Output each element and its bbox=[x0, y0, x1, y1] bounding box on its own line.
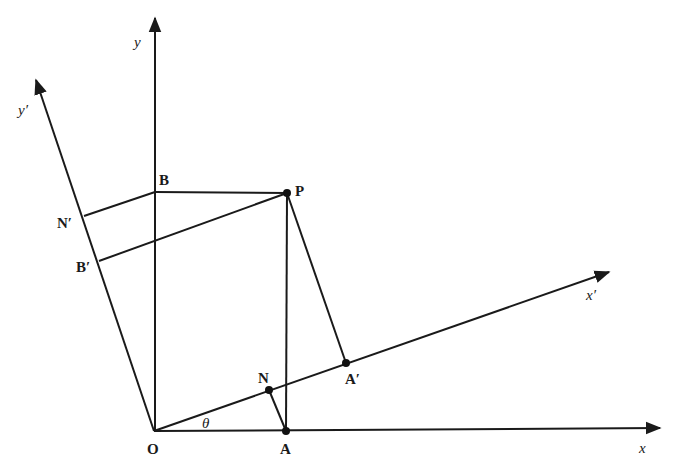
label-A: A bbox=[280, 441, 291, 457]
label-O: O bbox=[147, 441, 159, 457]
point-N bbox=[265, 386, 273, 394]
label-B-prime: B′ bbox=[76, 259, 90, 275]
line-B-P bbox=[155, 192, 287, 193]
label-y: y bbox=[132, 34, 141, 50]
label-N-prime: N′ bbox=[57, 215, 72, 231]
x-prime-axis bbox=[154, 272, 609, 431]
point-P bbox=[283, 189, 291, 197]
point-A-prime bbox=[342, 359, 350, 367]
label-B: B bbox=[159, 172, 169, 188]
label-N: N bbox=[258, 370, 269, 386]
label-P: P bbox=[295, 183, 304, 199]
line-P-B-prime bbox=[99, 193, 287, 261]
line-B-N-prime bbox=[84, 192, 155, 216]
rotated-axes-diagram: y y′ x′ x B P N′ B′ N A′ O A θ bbox=[0, 0, 676, 474]
label-theta: θ bbox=[202, 415, 210, 431]
x-axis bbox=[154, 428, 660, 431]
label-x: x bbox=[638, 440, 646, 456]
y-prime-axis bbox=[36, 80, 154, 431]
line-P-A bbox=[286, 193, 287, 431]
label-x-prime: x′ bbox=[585, 287, 597, 303]
line-A-N bbox=[269, 390, 286, 431]
point-A bbox=[282, 427, 290, 435]
label-y-prime: y′ bbox=[16, 102, 29, 118]
line-P-A-prime bbox=[287, 193, 346, 363]
label-A-prime: A′ bbox=[345, 371, 360, 387]
